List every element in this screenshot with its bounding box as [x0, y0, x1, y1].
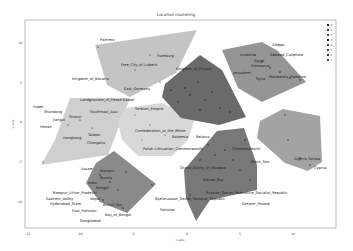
label-lubeck: Free_City_of_Lubeck [121, 63, 158, 67]
label-anatolia: Anatolia [240, 53, 255, 57]
label-east-pakistan: East_Pakistan [72, 209, 97, 213]
y-tick: -10 [17, 200, 22, 204]
legend: 0 1 2 3 4 5 6 7 [324, 22, 334, 64]
label-bangladesh: Bangladesh [80, 219, 101, 223]
label-prussia: Kingdom_of_Prussia [176, 67, 212, 71]
label-abbasid: Abbasid_Caliphate [270, 53, 304, 57]
label-aleppo: Aleppo [272, 43, 284, 47]
x-tick: 0 [186, 232, 188, 236]
label-hesse: Landgraviate_of_Hesse-Kassel [80, 98, 134, 102]
x-axis-label: x-axis [176, 238, 185, 242]
label-jerusalem: Jerusalem [232, 71, 251, 75]
label-algeria: Algeria [294, 157, 307, 161]
label-pakistan: Pakistan [160, 208, 175, 212]
y-tick: -5 [19, 160, 22, 164]
label-rampur: Rampur_(Uttar_Pradesh) [53, 191, 98, 195]
label-kievan: Kievan_Rus [203, 178, 224, 182]
label-manipur: Manipur [100, 169, 115, 173]
chart-figure: Location clustering Palermo Hamburg Free… [0, 0, 353, 251]
label-serbian: Serbian_Empire [135, 107, 164, 111]
label-changsha: Changsha [87, 141, 105, 145]
legend-box [324, 22, 334, 64]
label-hongkong: Hongkong [63, 136, 81, 140]
label-hubei: Hubei [33, 105, 43, 109]
label-hamburg: Hamburg [157, 54, 174, 58]
label-rsfsr: Russian_Soviet_Federative_Socialist_Repu… [206, 191, 288, 195]
label-bengal: Bengal [96, 186, 108, 190]
label-nepal: Nepal [90, 197, 100, 201]
label-bohemia: Bohemia [172, 135, 188, 139]
x-axis: -15 -10 -5 0 5 10 x-axis [25, 232, 295, 242]
y-tick: 0 [20, 120, 22, 124]
label-kingdom-bavaria: Kingdom_of_Bavaria [72, 77, 109, 81]
x-tick: 10 [291, 232, 295, 236]
label-east-germany: East_Germany [124, 87, 151, 91]
label-shanxi: Shanxi [69, 115, 81, 119]
label-greater-poland: Greater_Poland [242, 202, 270, 206]
label-henan: Henan [40, 125, 52, 129]
label-tunisia: Tunisia [307, 157, 320, 161]
label-bay-bengal: Bay_of_Bengal [105, 213, 131, 217]
label-british-raj: British_Raj [103, 203, 122, 207]
label-syria: Syria [256, 77, 265, 81]
label-southeast-asia: Southeast_Asia [90, 110, 117, 114]
y-axis-label: y-axis [11, 119, 15, 128]
label-assam: Assam [81, 167, 93, 171]
label-cyprus: Cyprus [314, 166, 327, 170]
label-rhine: Confederation_of_the_Rhine [135, 129, 186, 133]
x-tick: 5 [239, 232, 241, 236]
x-tick: -10 [77, 232, 82, 236]
label-palestine: Mandatory_Palestine [269, 75, 307, 79]
label-hyderabad: Hyderabad_State [50, 202, 82, 206]
label-belarus: Belarus [196, 135, 210, 139]
label-taiwan: Taiwan [87, 133, 100, 137]
label-kashmir: Kashmir_Valley [46, 197, 74, 201]
chart-title: Location clustering [157, 12, 195, 17]
label-byelo: Byelorussian_Soviet_Socialist_Republic [155, 197, 225, 201]
label-egypt: Egypt [254, 59, 265, 63]
label-moscow: Grand_Duchy_of_Moscow [180, 166, 226, 170]
x-tick: -15 [25, 232, 30, 236]
label-commonwealth: Commonwealth [232, 147, 260, 151]
label-burma: Burma [100, 176, 112, 180]
y-axis: 10 5 0 -5 -10 y-axis [11, 41, 22, 204]
label-india: India [88, 181, 97, 185]
y-tick: 5 [20, 81, 22, 85]
label-damascus: Damascus [251, 64, 270, 68]
label-palermo: Palermo [100, 38, 115, 42]
x-tick: -5 [131, 232, 134, 236]
y-tick: 10 [18, 41, 22, 45]
label-black-sea: Black_Sea [251, 160, 269, 164]
label-jiangxi: Jiangxi [52, 118, 65, 122]
label-shandong: Shandong [44, 110, 62, 114]
label-plc: Polish-Lithuanian_Commonwealth [143, 147, 204, 151]
